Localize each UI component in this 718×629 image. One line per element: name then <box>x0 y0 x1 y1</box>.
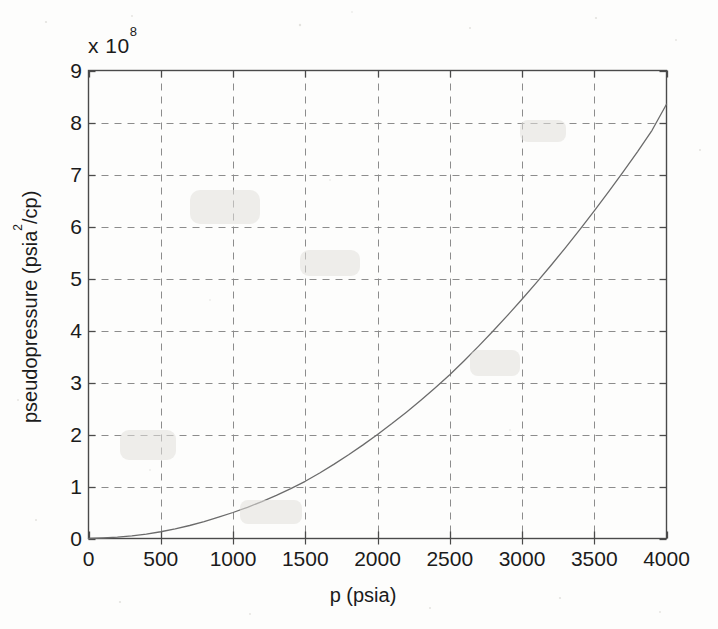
y-axis-exponent-power: 8 <box>130 24 138 39</box>
y-axis-tick-label: 1 <box>52 476 82 497</box>
axis-box <box>89 71 667 539</box>
y-axis-tick-label: 8 <box>52 112 82 133</box>
plot-area <box>0 0 718 629</box>
x-axis-title-text: p (psia) <box>330 584 397 606</box>
gridlines <box>89 71 667 539</box>
y-axis-title: pseudopressure (psia2/cp) <box>18 142 42 472</box>
y-axis-tick-labels: 0123456789 <box>52 0 82 629</box>
y-axis-tick-label: 0 <box>52 528 82 549</box>
y-axis-tick-label: 4 <box>52 320 82 341</box>
y-axis-exponent-prefix: x 10 <box>88 34 130 57</box>
y-axis-tick-label: 7 <box>52 164 82 185</box>
y-axis-tick-label: 9 <box>52 60 82 81</box>
y-axis-exponent-label: x 108 <box>88 33 137 58</box>
y-axis-tick-label: 6 <box>52 216 82 237</box>
y-axis-tick-label: 3 <box>52 372 82 393</box>
y-axis-title-superscript: 2 <box>11 224 25 231</box>
data-series-line <box>89 104 667 538</box>
figure-canvas: x 108 0123456789 05001000150020002500300… <box>0 0 718 629</box>
y-axis-title-base: pseudopressure (psia <box>19 231 41 423</box>
y-axis-tick-label: 2 <box>52 424 82 445</box>
y-axis-tick-label: 5 <box>52 268 82 289</box>
y-axis-title-wrapper: pseudopressure (psia2/cp) <box>0 0 56 629</box>
x-axis-title: p (psia) <box>0 584 718 607</box>
x-axis-tick-labels: 05001000150020002500300035004000 <box>0 548 718 580</box>
x-axis-tick-label: 4000 <box>622 548 712 569</box>
y-axis-title-tail: /cp) <box>19 191 41 224</box>
